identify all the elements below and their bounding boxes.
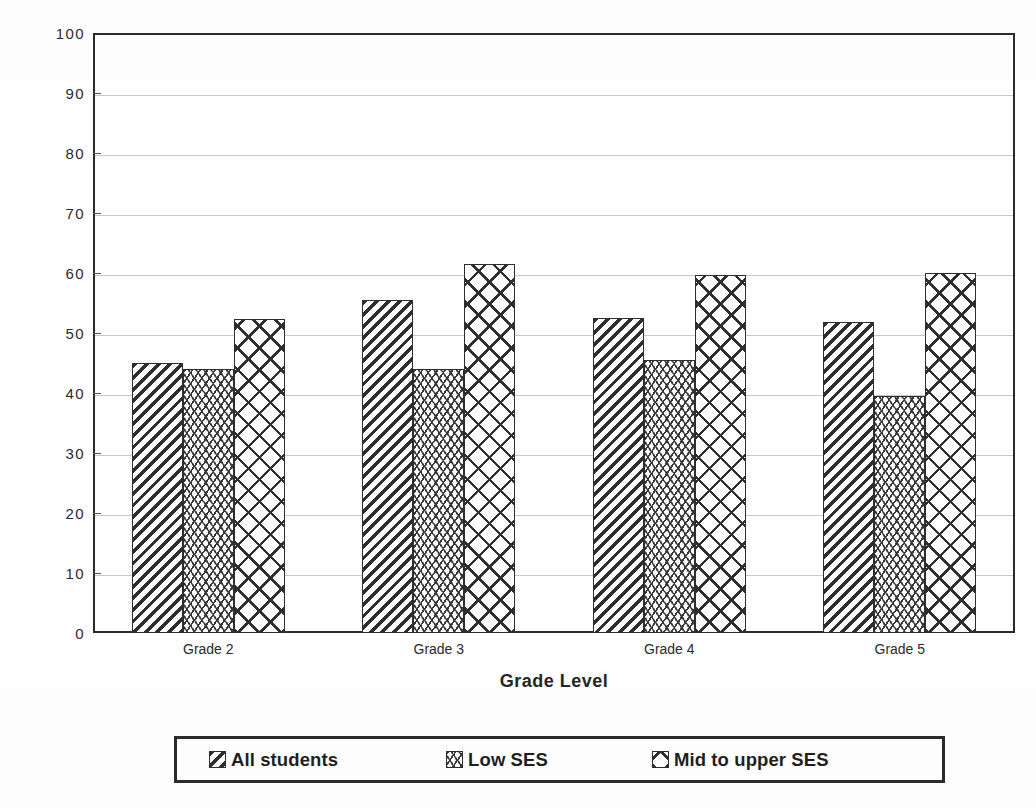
- x-axis-tick-label: Grade 2: [183, 641, 234, 657]
- bar: [644, 360, 695, 633]
- bar: [874, 396, 925, 633]
- bar: [413, 369, 464, 633]
- bar: [464, 264, 515, 633]
- bar: [132, 363, 183, 633]
- bar: [362, 300, 413, 633]
- y-axis-title-container: Math Scores (Percentiles): [2, 32, 36, 634]
- bar: [823, 322, 874, 633]
- x-axis-tick-label: Grade 5: [875, 641, 926, 657]
- x-axis-tick-label: Grade 3: [414, 641, 465, 657]
- y-axis-tick-label: 100: [39, 25, 85, 42]
- y-axis-tick-label: 40: [39, 385, 85, 402]
- legend-item: All students: [209, 749, 338, 771]
- chart-legend: All studentsLow SESMid to upper SES: [174, 736, 945, 783]
- legend-item-label: All students: [231, 749, 338, 771]
- bar: [925, 273, 976, 633]
- y-axis-tick-label: 70: [39, 205, 85, 222]
- legend-item: Low SES: [446, 749, 548, 771]
- bar: [183, 369, 234, 633]
- bar: [593, 318, 644, 633]
- y-axis-tick-label: 80: [39, 145, 85, 162]
- y-axis-tick-label: 50: [39, 325, 85, 342]
- y-axis-tick-label: 20: [39, 505, 85, 522]
- legend-item: Mid to upper SES: [652, 749, 829, 771]
- y-axis-tick-label: 30: [39, 445, 85, 462]
- x-axis-tick-label: Grade 4: [644, 641, 695, 657]
- diagonal-hatch-swatch: [209, 751, 226, 768]
- y-axis-tick-label: 90: [39, 85, 85, 102]
- bars-layer: [93, 33, 1015, 633]
- legend-item-label: Low SES: [468, 749, 548, 771]
- wavy-hatch-swatch: [446, 751, 463, 768]
- legend-item-label: Mid to upper SES: [674, 749, 829, 771]
- bar: [234, 319, 285, 633]
- y-axis-tick-label: 10: [39, 565, 85, 582]
- y-axis-tick-labels: 0102030405060708090100: [33, 33, 85, 633]
- cross-hatch-swatch: [652, 751, 669, 768]
- bar: [695, 275, 746, 633]
- x-axis-title: Grade Level: [93, 671, 1015, 692]
- y-axis-tick-label: 0: [39, 625, 85, 642]
- math-scores-bar-chart: Math Scores (Percentiles) 01020304050607…: [0, 0, 1036, 808]
- x-axis-tick-labels: Grade 2Grade 3Grade 4Grade 5: [93, 641, 1015, 663]
- y-axis-tick-label: 60: [39, 265, 85, 282]
